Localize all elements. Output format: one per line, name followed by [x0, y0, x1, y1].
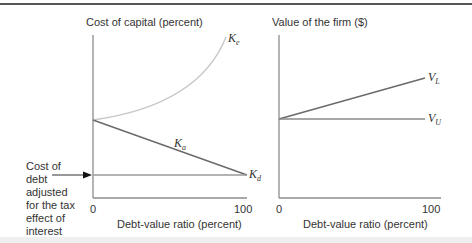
- note-line: for the tax: [26, 199, 101, 212]
- vl-line: [279, 78, 425, 119]
- right-x-tick-0: 0: [276, 203, 282, 216]
- vl-label: VL: [428, 70, 440, 86]
- ke-curve: [93, 37, 226, 120]
- note-line: debt: [26, 173, 101, 186]
- ka-label-main: K: [174, 136, 182, 150]
- right-x-axis-label: Debt-value ratio (percent): [303, 218, 428, 231]
- ka-line: [93, 120, 247, 175]
- note-line: interest: [26, 225, 101, 238]
- ka-label: Ka: [174, 136, 186, 152]
- ka-label-sub: a: [182, 143, 186, 152]
- vu-label: VU: [428, 111, 441, 127]
- note-line: effect of: [26, 212, 101, 225]
- kd-label-sub: d: [257, 174, 261, 183]
- ke-label-sub: e: [236, 38, 240, 47]
- ke-label-main: K: [228, 31, 236, 45]
- kd-label: Kd: [249, 167, 261, 183]
- ke-label: Ke: [228, 31, 240, 47]
- right-x-tick-100: 100: [422, 203, 440, 216]
- note-line: adjusted: [26, 186, 101, 199]
- vl-label-sub: L: [435, 77, 439, 86]
- note-line: Cost of: [26, 160, 101, 173]
- kd-label-main: K: [249, 167, 257, 181]
- vu-label-sub: U: [435, 118, 441, 127]
- left-x-tick-100: 100: [234, 203, 252, 216]
- cost-of-debt-note: Cost of debt adjusted for the tax effect…: [26, 160, 101, 238]
- right-y-axis-label: Value of the firm ($): [272, 16, 368, 29]
- left-y-axis-label: Cost of capital (percent): [86, 16, 203, 29]
- left-x-axis-label: Debt-value ratio (percent): [117, 218, 242, 231]
